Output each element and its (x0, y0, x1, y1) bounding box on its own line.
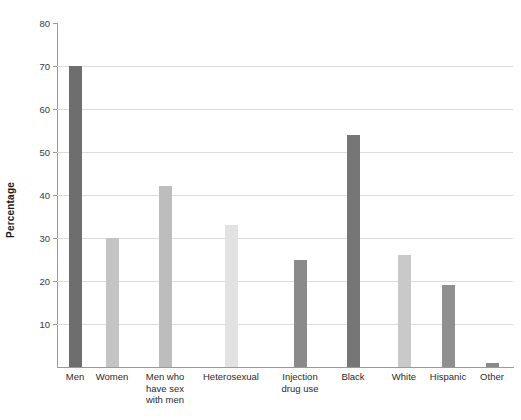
bar (159, 186, 172, 367)
y-axis-tick-mark (53, 195, 57, 196)
x-axis-tick-labels: MenWomenMen whohave sexwith menHeterosex… (0, 371, 521, 420)
y-axis-tick-mark (53, 152, 57, 153)
y-axis-tick-mark (53, 109, 57, 110)
y-axis-tick-label: 30 (20, 233, 50, 244)
bar (486, 363, 499, 367)
y-axis-tick-mark (53, 66, 57, 67)
x-axis-tick-label-line: Other (456, 371, 521, 383)
bar (347, 135, 360, 367)
x-axis-tick-label: Men whohave sexwith men (129, 371, 201, 406)
y-axis-tick-mark (53, 238, 57, 239)
gridline (57, 238, 513, 239)
bar (69, 66, 82, 367)
y-axis-tick-label: 20 (20, 276, 50, 287)
bar (442, 285, 455, 367)
y-axis-tick-label: 60 (20, 104, 50, 115)
gridline (57, 195, 513, 196)
bar (106, 238, 119, 367)
x-axis-tick-label-line: drug use (264, 383, 336, 395)
bar (294, 260, 307, 368)
y-axis-tick-label: 50 (20, 147, 50, 158)
y-axis-title: Percentage (0, 0, 20, 420)
y-axis-tick-label: 40 (20, 190, 50, 201)
plot-area (57, 23, 513, 367)
gridline (57, 66, 513, 67)
x-axis-tick-label-line: Heterosexual (195, 371, 267, 383)
gridline (57, 109, 513, 110)
x-axis-tick-label: Other (456, 371, 521, 383)
y-axis-tick-labels: 1020304050607080 (18, 23, 50, 368)
bar (225, 225, 238, 367)
y-axis-tick-mark (53, 324, 57, 325)
x-axis-tick-label-line: have sex (129, 383, 201, 395)
gridline (57, 281, 513, 282)
y-axis-tick-label: 10 (20, 319, 50, 330)
gridline (57, 152, 513, 153)
x-axis-tick-label: Heterosexual (195, 371, 267, 383)
x-axis-tick-label-line: Men who (129, 371, 201, 383)
x-axis-line (57, 367, 514, 368)
x-axis-tick-label-line: with men (129, 394, 201, 406)
y-axis-tick-label: 70 (20, 61, 50, 72)
y-axis-tick-mark (53, 281, 57, 282)
y-axis-tick-label: 80 (20, 18, 50, 29)
bar (398, 255, 411, 367)
y-axis-tick-mark (53, 23, 57, 24)
bar-chart: Percentage 1020304050607080 MenWomenMen … (0, 0, 521, 420)
